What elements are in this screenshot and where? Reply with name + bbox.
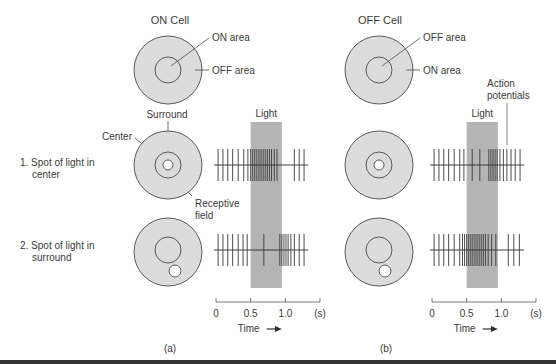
light-spot (379, 265, 391, 277)
time-axis-tick-label: 0 (213, 308, 219, 319)
receptive-field-annotation: Receptive (195, 198, 240, 209)
time-axis-tick-label: 1.0 (494, 308, 508, 319)
bottom-border (0, 360, 556, 364)
panel-b-caption: (b) (380, 343, 392, 354)
light-spot (163, 160, 173, 170)
center-area-label: OFF area (423, 32, 466, 43)
center-annotation: Center (102, 131, 133, 142)
light-stimulus-band (251, 122, 282, 288)
row-1-cell-center-spot (345, 131, 413, 199)
time-arrow-head-icon (275, 326, 282, 332)
panel-a-spike-trains: 00.51.0(s)Time (213, 122, 326, 334)
time-axis-tick-label: 0.5 (244, 308, 258, 319)
cell-surround-area (134, 218, 202, 286)
row-1-label: 1. Spot of light in (20, 157, 95, 168)
surround-annotation: Surround (146, 109, 187, 120)
row-2-cell-surround-spot (345, 218, 413, 286)
action-potentials-annotation: Action (487, 78, 515, 89)
panel-b-title: OFF Cell (358, 14, 402, 26)
receptive-field-annotation: field (195, 210, 213, 221)
time-axis-tick-label: (s) (314, 308, 326, 319)
row-2-label: surround (32, 252, 71, 263)
cell-surround-area (134, 36, 202, 104)
off-cell-diagram: OFF area ON area (345, 32, 466, 104)
cell-surround-area (345, 36, 413, 104)
receptive-field-figure: ON Cell ON area OFF area Surround Center… (0, 0, 556, 364)
panel-b: OFF Cell OFF area ON area Action potenti… (345, 14, 542, 354)
time-arrow-head-icon (491, 326, 498, 332)
panel-a: ON Cell ON area OFF area Surround Center… (20, 14, 326, 354)
action-potentials-annotation: potentials (487, 90, 530, 101)
time-axis-label: Time (238, 323, 260, 334)
light-annotation: Light (471, 108, 493, 119)
time-axis-tick-label: 1.0 (278, 308, 292, 319)
time-axis-tick-label: 0.5 (460, 308, 474, 319)
light-spot (169, 265, 181, 277)
surround-area-label: OFF area (212, 65, 255, 76)
panel-b-spike-trains: 00.51.0(s)Time (429, 122, 542, 334)
center-area-label: ON area (212, 32, 250, 43)
on-cell-diagram: ON area OFF area (134, 32, 255, 104)
time-axis-tick-label: 0 (429, 308, 435, 319)
light-spot (374, 160, 384, 170)
cell-surround-area (345, 218, 413, 286)
light-annotation: Light (255, 108, 277, 119)
row-1-label: center (32, 169, 60, 180)
panel-a-caption: (a) (164, 343, 176, 354)
row-2-cell-surround-spot (134, 218, 202, 286)
panel-a-title: ON Cell (151, 14, 190, 26)
light-stimulus-band (467, 122, 498, 288)
time-axis-label: Time (454, 323, 476, 334)
time-axis-tick-label: (s) (530, 308, 542, 319)
row-2-label: 2. Spot of light in (20, 240, 95, 251)
surround-area-label: ON area (423, 65, 461, 76)
row-1-cell-center-spot (134, 131, 202, 199)
